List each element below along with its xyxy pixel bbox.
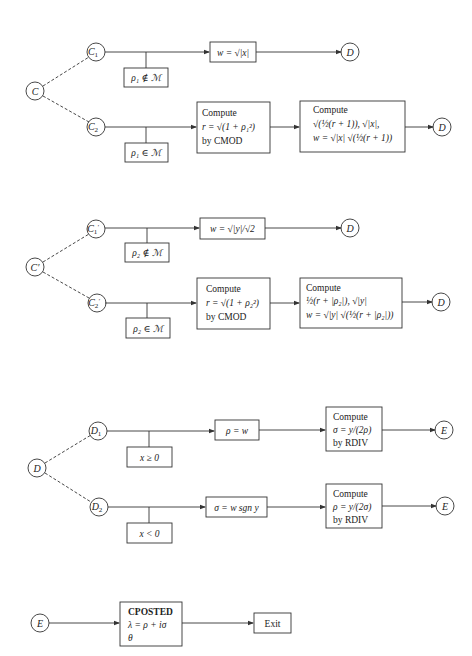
compute-line2: w = √|y| √(½(r + |ρ₂|)) xyxy=(306,310,393,321)
cmod-title: Compute xyxy=(202,108,237,118)
node-d-label: D xyxy=(345,47,354,58)
node-d-root-label: D xyxy=(32,463,41,474)
node-d-label: D xyxy=(436,297,445,308)
compute-line1: √(½(r + 1)), √|x|, xyxy=(313,119,379,130)
node-c-prime-label: C′ xyxy=(31,262,41,273)
cposted-title: CPOSTED xyxy=(128,607,173,617)
rdiv-method: by RDIV xyxy=(333,515,368,525)
condition-rho2-not-in-m: ρ₂ ∉ ℳ xyxy=(131,248,164,258)
cmod-formula: r = √(1 + ρ₂²) xyxy=(206,298,259,309)
node-c-label: C xyxy=(32,86,39,97)
node-d2-label: D2 xyxy=(91,501,103,514)
condition-x-negative: x < 0 xyxy=(138,529,159,539)
condition-x-nonnegative: x ≥ 0 xyxy=(139,453,159,463)
node-e-label: E xyxy=(441,501,448,512)
cmod-title: Compute xyxy=(206,284,241,294)
node-d1-label: D1 xyxy=(90,425,102,438)
cmod-method: by CMOD xyxy=(206,312,247,322)
node-e-root-label: E xyxy=(36,618,43,629)
rdiv-title: Compute xyxy=(333,412,368,422)
compute-line2: w = √|x| √(½(r + 1)) xyxy=(313,133,392,144)
action-rho-equals-w: ρ = w xyxy=(225,426,249,436)
cmod-method: by CMOD xyxy=(202,136,243,146)
exit-label: Exit xyxy=(265,619,281,629)
node-d-label: D xyxy=(437,122,446,133)
cposted-lambda: λ = ρ + iσ xyxy=(127,620,167,630)
condition-rho1-in-m: ρ₁ ∈ ℳ xyxy=(130,148,163,158)
compute-title: Compute xyxy=(306,283,341,293)
rdiv-formula: σ = y/(2ρ) xyxy=(333,425,371,436)
node-c2-label: C2 xyxy=(88,121,99,134)
action-sigma-w-sgn-y: σ = w sgn y xyxy=(214,503,259,513)
rdiv-formula: ρ = y/(2σ) xyxy=(332,502,371,513)
flow-diagram: C C1 C2 ρ₁ ∉ ℳ w = √|x| D ρ₁ ∈ ℳ Compute… xyxy=(0,0,472,656)
cposted-theta: θ xyxy=(128,633,133,643)
action-w-sqrt-y: w = √|y|/√2 xyxy=(210,224,255,234)
cmod-formula: r = √(1 + ρ₁²) xyxy=(202,122,255,133)
rdiv-method: by RDIV xyxy=(333,438,368,448)
node-d-label: D xyxy=(345,223,354,234)
condition-rho1-not-in-m: ρ₁ ∉ ℳ xyxy=(130,73,163,83)
node-c1-label: C1 xyxy=(88,46,99,59)
action-w-sqrt-x: w = √|x| xyxy=(217,48,249,58)
compute-line1: ½(r + |ρ₂|), √|y| xyxy=(306,296,367,307)
compute-title: Compute xyxy=(313,105,348,115)
node-e-label: E xyxy=(440,425,447,436)
condition-rho2-in-m: ρ₂ ∈ ℳ xyxy=(132,324,165,334)
rdiv-title: Compute xyxy=(333,489,368,499)
